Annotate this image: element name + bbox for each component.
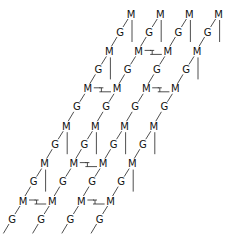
metal-metal-bond — [87, 200, 104, 204]
ligand-node: G — [139, 139, 147, 150]
metal-node: M — [128, 158, 137, 169]
metal-node: M — [48, 196, 57, 207]
diagonal-link — [62, 224, 68, 233]
ligand-node: G — [116, 27, 124, 38]
diagonal-link — [3, 224, 9, 233]
ligand-node: G — [51, 139, 59, 150]
ligand-node: G — [81, 139, 89, 150]
metal-node: M — [134, 46, 143, 57]
metal-node: M — [156, 9, 165, 20]
metal-node: M — [77, 196, 86, 207]
metal-node: M — [83, 83, 92, 94]
metal-node: M — [69, 158, 78, 169]
metal-node: M — [105, 46, 114, 57]
ligand-node: G — [102, 101, 110, 112]
ligand-node: G — [30, 176, 38, 187]
metal-node: M — [40, 158, 49, 169]
metal-node: M — [193, 46, 202, 57]
ligand-node: G — [145, 27, 153, 38]
ligand-node: G — [95, 64, 103, 75]
ligand-node: G — [59, 176, 67, 187]
metal-node: M — [91, 121, 100, 132]
metal-metal-bond — [145, 50, 162, 54]
ligand-node: G — [175, 27, 183, 38]
metal-metal-bond — [80, 163, 97, 167]
ligand-node: G — [88, 176, 96, 187]
ligand-node: G — [124, 64, 132, 75]
metal-node: M — [171, 83, 180, 94]
metal-node: M — [99, 158, 108, 169]
metal-node: M — [19, 196, 28, 207]
metal-metal-bond — [94, 88, 111, 92]
metal-node: M — [62, 121, 71, 132]
metal-node: M — [163, 46, 172, 57]
ligand-node: G — [204, 27, 212, 38]
metal-metal-bond — [29, 200, 46, 204]
metal-node: M — [142, 83, 151, 94]
ligand-node: G — [96, 214, 104, 225]
ligand-node: G — [37, 214, 45, 225]
metal-node: M — [149, 121, 158, 132]
metal-node: M — [120, 121, 129, 132]
metal-node: M — [185, 9, 194, 20]
metal-node: M — [106, 196, 115, 207]
ligand-node: G — [67, 214, 75, 225]
metal-metal-bond — [152, 88, 169, 92]
ligand-node: G — [131, 101, 139, 112]
ligand-node: G — [161, 101, 169, 112]
diagonal-link — [91, 224, 97, 233]
metal-node: M — [214, 9, 223, 20]
ligand-node: G — [182, 64, 190, 75]
ligand-node: G — [73, 101, 81, 112]
ligand-node: G — [153, 64, 161, 75]
ligand-node: G — [8, 214, 16, 225]
ligand-node: G — [110, 139, 118, 150]
ligand-node: G — [117, 176, 125, 187]
metal-node: M — [127, 9, 136, 20]
lattice-diagram: MGMGMGMGMGMGMGMGMGMGMGMGMGMGMGMGMGMGMGMG… — [0, 0, 233, 236]
diagonal-link — [33, 224, 39, 233]
metal-node: M — [113, 83, 122, 94]
